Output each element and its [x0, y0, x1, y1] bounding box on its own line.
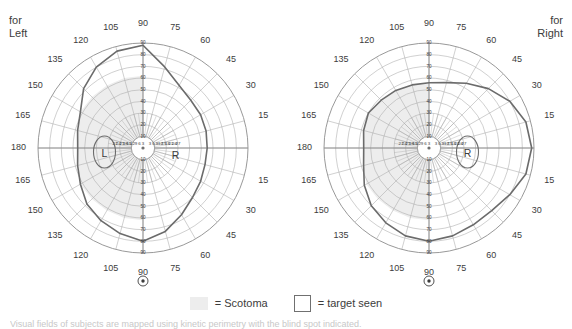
meridian-label-90: 90	[138, 18, 148, 28]
ring-label-70: 70	[426, 64, 432, 69]
grid-spoke-fine	[151, 156, 168, 173]
meridian-label-30: 30	[532, 205, 542, 215]
right-eye-polar-plot: R153045607590105120135150165180165150135…	[286, 0, 572, 300]
meridian-label-120: 120	[359, 250, 374, 260]
meridian-label-165: 165	[15, 175, 30, 185]
meridian-label-135: 135	[333, 230, 348, 240]
meridian-label-90: 90	[138, 267, 148, 277]
meridian-label-90: 90	[424, 18, 434, 28]
ring-label-lower-20: 20	[426, 169, 432, 174]
meridian-label-150: 150	[314, 205, 329, 215]
meridian-label-105: 105	[103, 22, 118, 32]
ring-label-10: 10	[426, 134, 432, 139]
meridian-label-135: 135	[47, 54, 62, 64]
meridian-label-45: 45	[226, 230, 236, 240]
fixation-point-icon	[141, 146, 144, 149]
meridian-label-105: 105	[103, 263, 118, 273]
meridian-label-60: 60	[200, 250, 210, 260]
ring-label-lower-40: 40	[140, 192, 146, 197]
meridian-label-45: 45	[226, 54, 236, 64]
left-eye-polar-plot: LR15304560759010512013515016518016515013…	[0, 0, 286, 300]
right-eye-field-chart: for Right R15304560759010512013515016518…	[286, 0, 572, 300]
ring-label-lower-10: 10	[426, 157, 432, 162]
blind-spot-label: L	[102, 147, 108, 159]
fixation-point-icon	[427, 146, 430, 149]
scotoma-swatch-icon	[190, 297, 208, 310]
ring-label-20: 20	[426, 122, 432, 127]
meridian-label-120: 120	[359, 35, 374, 45]
visual-field-page: for Left LR15304560759010512013515016518…	[0, 0, 572, 329]
ring-label-90: 90	[426, 40, 432, 45]
fixation-marker-dot-icon	[427, 279, 430, 282]
blind-spot-label: R	[464, 147, 472, 159]
meridian-label-75: 75	[456, 22, 466, 32]
meridian-label-30: 30	[246, 80, 256, 90]
ring-label-80: 80	[426, 52, 432, 57]
left-eye-field-chart: for Left LR15304560759010512013515016518…	[0, 0, 286, 300]
ring-label-60: 60	[140, 75, 146, 80]
right-eye-plot-svg: R153045607590105120135150165180165150135…	[286, 0, 572, 300]
meridian-label-60: 60	[200, 35, 210, 45]
grid-spoke-fine	[151, 123, 168, 140]
ring-label-50: 50	[426, 87, 432, 92]
legend-item-scotoma: = Scotoma	[190, 297, 268, 310]
meridian-label-150: 150	[28, 80, 43, 90]
secondary-marker-label: R	[172, 149, 180, 161]
fixation-marker-dot-icon	[141, 279, 144, 282]
meridian-label-165: 165	[301, 110, 316, 120]
meridian-label-105: 105	[389, 263, 404, 273]
ring-label-50: 50	[140, 87, 146, 92]
ring-label-lower-90: 90	[140, 250, 146, 255]
ring-label-lower-70: 70	[426, 227, 432, 232]
meridian-label-75: 75	[456, 263, 466, 273]
ring-label-30: 30	[426, 110, 432, 115]
legend-label-scotoma: = Scotoma	[215, 297, 268, 309]
ring-label-lower-80: 80	[140, 239, 146, 244]
ring-label-lower-70: 70	[140, 227, 146, 232]
ring-label-90: 90	[140, 40, 146, 45]
ring-label-lower-60: 60	[140, 215, 146, 220]
meridian-label-120: 120	[73, 35, 88, 45]
meridian-label-15: 15	[544, 175, 554, 185]
meridian-label-45: 45	[512, 54, 522, 64]
page-footnote: Visual fields of subjects are mapped usi…	[10, 319, 560, 329]
meridian-label-150: 150	[28, 205, 43, 215]
meridian-label-105: 105	[389, 22, 404, 32]
meridian-label-75: 75	[170, 263, 180, 273]
meridian-label-90: 90	[424, 267, 434, 277]
meridian-label-15: 15	[544, 110, 554, 120]
ring-label-70: 70	[140, 64, 146, 69]
meridian-label-30: 30	[532, 80, 542, 90]
meridian-label-135: 135	[333, 54, 348, 64]
legend-item-target-seen: = target seen	[294, 295, 383, 312]
meridian-label-60: 60	[486, 35, 496, 45]
ring-label-lower-40: 40	[426, 192, 432, 197]
ring-label-lower-30: 30	[140, 180, 146, 185]
ring-label-lower-50: 50	[426, 204, 432, 209]
grid-spoke-fine	[437, 123, 454, 140]
left-eye-plot-svg: LR15304560759010512013515016518016515013…	[0, 0, 286, 300]
meridian-label-150: 150	[314, 80, 329, 90]
meridian-label-30: 30	[246, 205, 256, 215]
ring-label-lower-60: 60	[426, 215, 432, 220]
ring-label-10: 10	[140, 134, 146, 139]
ring-label-80: 80	[140, 52, 146, 57]
meridian-label-15: 15	[258, 175, 268, 185]
meridian-label-180: 180	[297, 142, 312, 152]
h-tick-right-27: 27	[462, 141, 467, 146]
ring-label-lower-90: 90	[426, 250, 432, 255]
h-tick-right-27: 27	[176, 141, 181, 146]
meridian-label-135: 135	[47, 230, 62, 240]
meridian-label-15: 15	[258, 110, 268, 120]
ring-label-lower-10: 10	[140, 157, 146, 162]
meridian-label-180: 180	[11, 142, 26, 152]
meridian-label-45: 45	[512, 230, 522, 240]
ring-label-lower-20: 20	[140, 169, 146, 174]
ring-label-30: 30	[140, 110, 146, 115]
ring-label-40: 40	[426, 99, 432, 104]
target-seen-swatch-icon	[294, 295, 311, 312]
legend-label-target-seen: = target seen	[318, 297, 383, 309]
ring-label-40: 40	[140, 99, 146, 104]
meridian-label-165: 165	[15, 110, 30, 120]
ring-label-20: 20	[140, 122, 146, 127]
